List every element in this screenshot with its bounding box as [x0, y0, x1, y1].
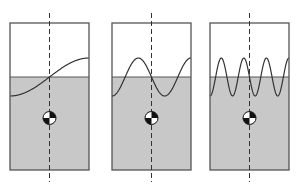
center-of-gravity-icon: [145, 112, 158, 125]
tank-mode-2: [112, 13, 191, 182]
sloshing-modes-diagram: [0, 0, 303, 193]
center-of-gravity-icon: [43, 112, 56, 125]
tank-mode-3: [210, 13, 289, 182]
tank-mode-1: [10, 13, 89, 182]
center-of-gravity-icon: [243, 112, 256, 125]
